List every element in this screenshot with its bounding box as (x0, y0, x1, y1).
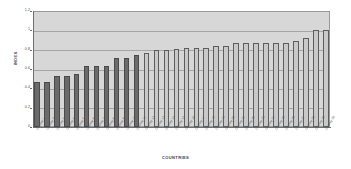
bar (283, 43, 289, 127)
x-tick-label: Country 1 (34, 128, 40, 152)
bar (303, 38, 309, 127)
x-tick-label: Country 18 (203, 128, 209, 152)
y-tick-mark (30, 127, 32, 128)
x-tick-label: Country 24 (263, 128, 269, 152)
bar (273, 43, 279, 127)
bar (233, 43, 239, 127)
bar (213, 46, 219, 127)
bar (253, 43, 259, 127)
x-tick-label: Country 29 (313, 128, 319, 152)
y-tick-mark (30, 50, 32, 51)
x-tick-label: Country 14 (163, 128, 169, 152)
y-tick-mark (30, 88, 32, 89)
x-tick-label: Country 12 (143, 128, 149, 152)
x-tick-label: Country 3 (54, 128, 60, 152)
x-tick-label: Country 13 (153, 128, 159, 152)
x-tick-label: Country 22 (243, 128, 249, 152)
x-tick-label: Country 6 (84, 128, 90, 152)
x-tick-label: Country 15 (173, 128, 179, 152)
y-tick-label: 0.6 (0, 67, 30, 71)
x-tick-label: Country 10 (124, 128, 130, 152)
y-tick-mark (30, 11, 32, 12)
y-tick-label: 1 (0, 28, 30, 32)
x-tick-label: Country 21 (233, 128, 239, 152)
x-tick-label: Country 19 (213, 128, 219, 152)
y-tick-mark (30, 69, 32, 70)
x-tick-label: Country 16 (183, 128, 189, 152)
y-tick-label: 0 (0, 125, 30, 129)
y-tick-label: 0.2 (0, 106, 30, 110)
x-tick-label: Country 23 (253, 128, 259, 152)
bar (313, 30, 319, 127)
x-tick-label: Country 17 (193, 128, 199, 152)
x-axis-title: COUNTRIES (0, 155, 351, 160)
x-tick-label: Country 8 (104, 128, 110, 152)
bar-chart: 1.210.80.60.40.20 Country 1Country 2Coun… (0, 0, 351, 169)
bar (124, 58, 130, 127)
bar (243, 43, 249, 127)
x-tick-label: Country 11 (134, 128, 140, 152)
bar (293, 41, 299, 127)
x-tick-label: Country 27 (293, 128, 299, 152)
y-tick-label: 0.4 (0, 86, 30, 90)
x-axis-category-labels: Country 1Country 2Country 3Country 4Coun… (34, 128, 329, 152)
bar (223, 46, 229, 127)
x-tick-label: Country 7 (94, 128, 100, 152)
bar (263, 43, 269, 127)
x-tick-label: Country 20 (223, 128, 229, 152)
x-tick-label: Country 25 (273, 128, 279, 152)
x-tick-label: Country 4 (64, 128, 70, 152)
y-tick-label: 1.2 (0, 9, 30, 13)
y-tick-mark (30, 108, 32, 109)
x-tick-label: Country 5 (74, 128, 80, 152)
x-tick-label: Country 28 (303, 128, 309, 152)
x-tick-label: Country 2 (44, 128, 50, 152)
bar (114, 58, 120, 127)
y-axis-title: INDEX (13, 52, 18, 66)
bar (323, 30, 329, 127)
bar-series (34, 12, 329, 127)
x-tick-label: Country 30 (323, 128, 329, 152)
x-tick-label: Country 26 (283, 128, 289, 152)
x-tick-label: Country 9 (114, 128, 120, 152)
y-tick-mark (30, 30, 32, 31)
